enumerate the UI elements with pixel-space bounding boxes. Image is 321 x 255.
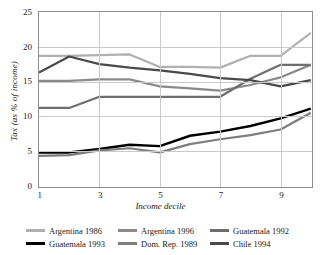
series-lines	[39, 12, 311, 186]
gridline-x-5	[160, 12, 161, 187]
chart-legend: Argentina 1986Argentina 1996Guatemala 19…	[26, 224, 306, 250]
plot-area	[38, 11, 313, 188]
series-line-argentina-1986	[39, 33, 311, 68]
legend-label: Argentina 1986	[49, 226, 102, 236]
x-tick-1: 1	[28, 190, 52, 200]
legend-label: Guatemala 1992	[233, 226, 289, 236]
legend-label: Dom. Rep. 1989	[141, 239, 197, 249]
legend-swatch-icon	[26, 229, 45, 232]
line-chart: Tax (as % of income) 0510152025 13579 In…	[0, 0, 321, 255]
legend-swatch-icon	[118, 242, 137, 245]
legend-swatch-icon	[210, 242, 229, 245]
legend-swatch-icon	[210, 229, 229, 232]
legend-label: Argentina 1996	[141, 226, 194, 236]
series-line-dom-rep-1989	[39, 113, 311, 156]
y-tick-5: 5	[4, 146, 32, 156]
y-tick-20: 20	[4, 42, 32, 52]
legend-label: Chile 1994	[233, 239, 271, 249]
gridline-y-20	[39, 47, 312, 48]
legend-item-chile-1994[interactable]: Chile 1994	[210, 239, 306, 249]
legend-swatch-icon	[26, 242, 45, 245]
legend-item-argentina-1996[interactable]: Argentina 1996	[118, 226, 210, 236]
gridline-x-9	[281, 12, 282, 187]
legend-item-argentina-1986[interactable]: Argentina 1986	[26, 226, 118, 236]
legend-item-dom-rep-1989[interactable]: Dom. Rep. 1989	[118, 239, 210, 249]
y-tick-25: 25	[4, 7, 32, 17]
gridline-y-10	[39, 116, 312, 117]
x-tick-5: 5	[149, 190, 173, 200]
y-tick-15: 15	[4, 76, 32, 86]
gridline-y-5	[39, 151, 312, 152]
legend-item-guatemala-1993[interactable]: Guatemala 1993	[26, 239, 118, 249]
y-tick-10: 10	[4, 111, 32, 121]
x-tick-9: 9	[269, 190, 293, 200]
gridline-y-15	[39, 82, 312, 83]
legend-item-guatemala-1992[interactable]: Guatemala 1992	[210, 226, 306, 236]
gridline-x-3	[99, 12, 100, 187]
x-tick-3: 3	[88, 190, 112, 200]
x-axis-title: Income decile	[0, 201, 321, 211]
x-tick-7: 7	[209, 190, 233, 200]
gridline-x-7	[220, 12, 221, 187]
legend-swatch-icon	[118, 229, 137, 232]
legend-label: Guatemala 1993	[49, 239, 105, 249]
